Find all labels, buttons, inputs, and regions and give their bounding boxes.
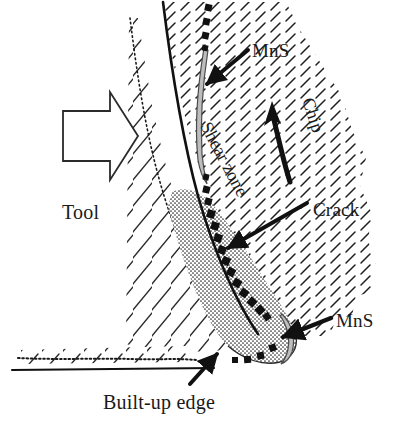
machined-surface-profile	[18, 358, 196, 360]
label-crack: Crack	[313, 199, 360, 220]
tool-feed-arrow	[63, 92, 138, 180]
label-tool: Tool	[62, 201, 99, 223]
label-built-up-edge: Built-up edge	[103, 391, 215, 414]
workpiece-baseline	[12, 368, 214, 370]
label-mns-top: MnS	[252, 40, 290, 61]
machining-diagram: MnS Chip Shear zone Crack MnS Tool Built…	[0, 0, 395, 427]
label-mns-bottom: MnS	[336, 310, 374, 331]
